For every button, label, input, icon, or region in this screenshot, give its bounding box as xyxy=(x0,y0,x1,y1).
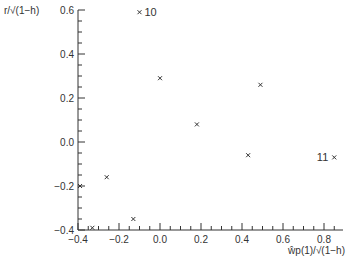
x-tick-label: 0.6 xyxy=(276,234,290,245)
axes: −0.4−0.20.00.20.40.6−0.4−0.20.00.20.40.6… xyxy=(54,5,343,246)
data-point-x-marker xyxy=(131,217,135,221)
x-tick-label: 0.0 xyxy=(153,234,167,245)
x-axis-title: ŵp(1)/√(1−h) xyxy=(287,245,345,256)
y-tick-label: 0.4 xyxy=(60,49,74,60)
data-points: 1011 xyxy=(78,6,336,230)
point-label: 11 xyxy=(317,151,328,163)
x-tick-label: 0.8 xyxy=(317,234,331,245)
x-tick-label: −0.4 xyxy=(68,234,88,245)
x-tick-label: 0.2 xyxy=(194,234,208,245)
scatter-chart: −0.4−0.20.00.20.40.6−0.4−0.20.00.20.40.6… xyxy=(0,0,348,261)
y-axis-title: r/√(1−h) xyxy=(4,5,39,16)
y-tick-label: 0.2 xyxy=(60,93,74,104)
y-tick-label: 0.0 xyxy=(60,137,74,148)
x-tick-label: −0.2 xyxy=(109,234,129,245)
data-point-x-marker xyxy=(246,153,250,157)
point-label: 10 xyxy=(145,6,157,18)
y-tick-label: 0.6 xyxy=(60,5,74,16)
data-point-x-marker xyxy=(195,122,199,126)
data-point-x-marker xyxy=(158,76,162,80)
data-point-x-marker xyxy=(258,83,262,87)
data-point-x-marker xyxy=(105,175,109,179)
data-point-x-marker xyxy=(90,226,94,230)
data-point-x-marker xyxy=(332,155,336,159)
y-tick-label: −0.2 xyxy=(54,181,74,192)
data-point-x-marker xyxy=(138,10,142,14)
x-tick-label: 0.4 xyxy=(235,234,249,245)
